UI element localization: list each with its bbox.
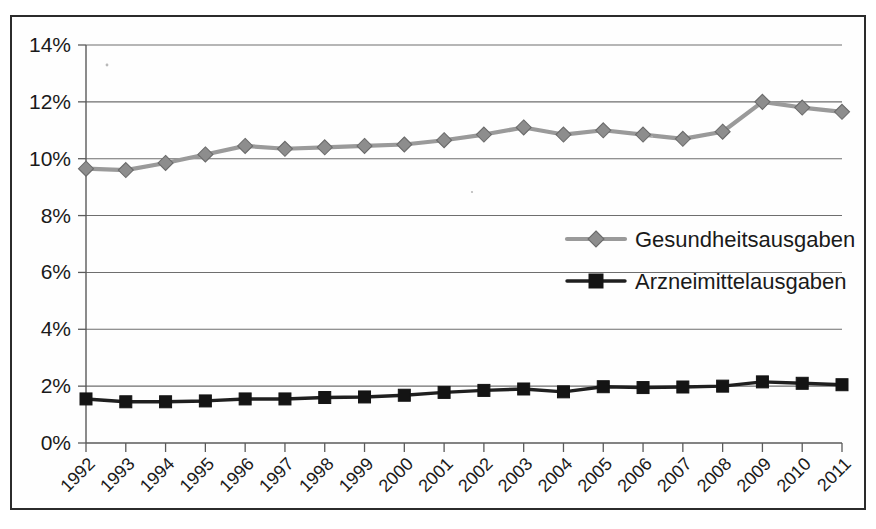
data-point-marker-diamond: [317, 140, 332, 155]
data-point-marker-diamond: [198, 147, 213, 162]
data-point-marker-square: [160, 396, 172, 408]
data-point-marker-square: [677, 381, 689, 393]
data-point-marker-square: [438, 386, 450, 398]
data-point-marker-diamond: [437, 133, 452, 148]
x-axis-tick-label: 1999: [335, 454, 377, 496]
data-point-marker-square: [597, 381, 609, 393]
data-point-marker-square: [398, 389, 410, 401]
data-point-marker-square: [637, 382, 649, 394]
data-point-marker-square: [359, 391, 371, 403]
data-point-marker-square: [557, 386, 569, 398]
x-axis-ticks: [86, 443, 842, 452]
data-point-marker-diamond: [556, 127, 571, 142]
chart-frame: 0%2%4%6%8%10%12%14% 19921993199419951996…: [10, 15, 866, 510]
data-point-marker-square: [717, 380, 729, 392]
x-axis-labels: 1992199319941995199619971998199920002001…: [56, 454, 854, 496]
y-axis-tick-label: 14%: [29, 33, 71, 56]
y-axis-tick-label: 4%: [41, 317, 71, 340]
data-point-marker-diamond: [835, 104, 850, 119]
data-point-marker-square: [836, 379, 848, 391]
data-point-marker-square: [80, 393, 92, 405]
y-axis-labels: 0%2%4%6%8%10%12%14%: [29, 33, 71, 454]
x-axis-tick-label: 2003: [494, 454, 536, 496]
x-axis-tick-label: 1996: [216, 454, 258, 496]
legend-label-1: Gesundheitsausgaben: [635, 227, 855, 252]
data-point-marker-square: [279, 393, 291, 405]
data-point-marker-diamond: [238, 138, 253, 153]
x-axis-tick-label: 2008: [693, 454, 735, 496]
x-axis-tick-label: 2001: [414, 454, 456, 496]
series-line-1: [86, 102, 842, 170]
x-axis-tick-label: 1998: [295, 454, 337, 496]
x-axis-tick-label: 2002: [454, 454, 496, 496]
x-axis-tick-label: 2005: [574, 454, 616, 496]
data-point-marker-diamond: [596, 123, 611, 138]
x-axis-tick-label: 1992: [56, 454, 98, 496]
legend-label-2: Arzneimittelausgaben: [635, 269, 847, 294]
data-point-marker-diamond: [636, 127, 651, 142]
data-point-marker-square: [796, 377, 808, 389]
square-marker-icon: [589, 274, 603, 288]
x-axis-tick-label: 2011: [813, 454, 855, 496]
data-point-marker-square: [239, 393, 251, 405]
x-axis-tick-label: 1993: [96, 454, 138, 496]
data-point-marker-square: [120, 396, 132, 408]
x-axis-tick-label: 2009: [733, 454, 775, 496]
data-point-marker-diamond: [357, 138, 372, 153]
data-point-marker-diamond: [79, 161, 94, 176]
data-point-marker-square: [478, 384, 490, 396]
data-point-marker-square: [756, 376, 768, 388]
y-axis-tick-label: 2%: [41, 374, 71, 397]
y-axis-tick-label: 12%: [29, 90, 71, 113]
x-axis-tick-label: 2006: [613, 454, 655, 496]
data-point-marker-diamond: [476, 127, 491, 142]
scan-speckle: [106, 64, 653, 194]
x-axis-tick-label: 2000: [375, 454, 417, 496]
data-point-marker-diamond: [397, 137, 412, 152]
y-axis-tick-label: 10%: [29, 147, 71, 170]
x-axis-tick-label: 2007: [653, 454, 695, 496]
diamond-marker-icon: [588, 231, 604, 247]
x-axis-tick-label: 2010: [773, 454, 815, 496]
chart-legend: GesundheitsausgabenArzneimittelausgaben: [567, 227, 855, 294]
data-point-marker-square: [319, 392, 331, 404]
data-point-marker-diamond: [158, 155, 173, 170]
x-axis-tick-label: 1995: [176, 454, 218, 496]
data-point-marker-diamond: [516, 120, 531, 135]
x-axis-tick-label: 2004: [534, 454, 576, 496]
data-point-marker-diamond: [277, 141, 292, 156]
x-axis-tick-label: 1997: [255, 454, 297, 496]
y-axis-tick-label: 6%: [41, 260, 71, 283]
data-point-marker-square: [518, 383, 530, 395]
y-axis-tick-label: 0%: [41, 431, 71, 454]
data-point-marker-diamond: [118, 163, 133, 178]
data-point-marker-diamond: [675, 131, 690, 146]
x-axis-tick-label: 1994: [136, 454, 178, 496]
y-axis-tick-label: 8%: [41, 204, 71, 227]
line-chart: 0%2%4%6%8%10%12%14% 19921993199419951996…: [12, 17, 868, 512]
data-point-marker-square: [199, 395, 211, 407]
